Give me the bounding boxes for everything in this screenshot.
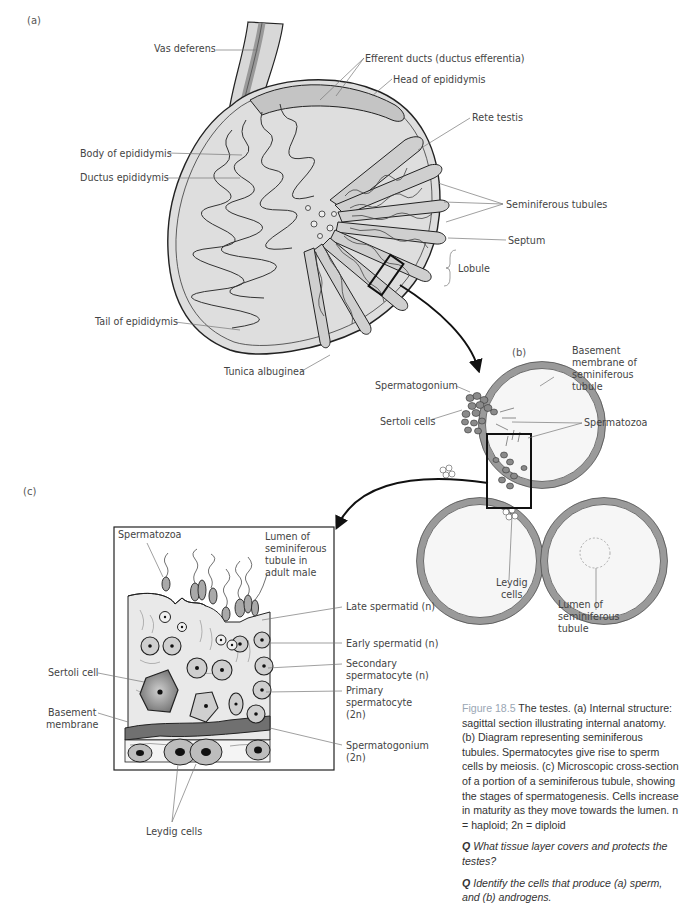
- label-ductus-epididymis: Ductus epididymis: [80, 172, 169, 183]
- label-spermatogonium-c-2: (2n): [346, 752, 366, 763]
- label-secondary-spermatocyte-2: spermatocyte (n): [346, 670, 429, 681]
- figure-caption: Figure 18.5 The testes. (a) Internal str…: [462, 701, 680, 905]
- label-leydig-cells-b-1: Leydig: [496, 577, 528, 588]
- panel-label-c: (c): [23, 486, 36, 497]
- label-tail-of-epididymis: Tail of epididymis: [94, 316, 178, 327]
- label-basement-membrane-c-2: membrane: [46, 719, 99, 730]
- label-lumen-c-3: tubule in: [265, 555, 307, 566]
- label-body-of-epididymis: Body of epididymis: [80, 148, 172, 159]
- label-spermatogonium-b: Spermatogonium: [375, 380, 458, 391]
- label-sertoli-cells-b: Sertoli cells: [380, 416, 435, 427]
- label-secondary-spermatocyte-1: Secondary: [346, 658, 397, 669]
- figure-number: Figure 18.5: [462, 702, 516, 714]
- label-lumen-c-2: seminiferous: [265, 543, 327, 554]
- label-primary-spermatocyte-2: spermatocyte: [346, 697, 412, 708]
- label-vas-deferens: Vas deferens: [154, 43, 216, 54]
- question-1: Q What tissue layer covers and protects …: [462, 839, 680, 868]
- label-rete-testis: Rete testis: [472, 112, 523, 123]
- panel-label-a: (a): [27, 15, 41, 26]
- label-lumen-b-1: Lumen of: [558, 599, 604, 610]
- label-leydig-cells-c: Leydig cells: [146, 826, 202, 837]
- label-leydig-cells-b-2: cells: [501, 589, 523, 600]
- label-basement-membrane-c-1: Basement: [48, 707, 97, 718]
- label-primary-spermatocyte-1: Primary: [346, 685, 383, 696]
- question-2: Q Identify the cells that produce (a) sp…: [462, 876, 680, 905]
- question-1-text: What tissue layer covers and protects th…: [462, 840, 668, 867]
- label-head-of-epididymis: Head of epididymis: [393, 74, 486, 85]
- label-seminiferous-tubules: Seminiferous tubules: [506, 199, 607, 210]
- panel-label-b: (b): [512, 347, 526, 358]
- label-basement-membrane-b-1: Basement: [572, 345, 621, 356]
- label-lumen-b-2: seminiferous: [558, 611, 620, 622]
- label-early-spermatid: Early spermatid (n): [346, 638, 438, 649]
- label-spermatozoa-c: Spermatozoa: [118, 529, 182, 540]
- label-basement-membrane-b-4: tubule: [572, 381, 603, 392]
- label-spermatozoa-b: Spermatozoa: [584, 417, 648, 428]
- label-primary-spermatocyte-3: (2n): [346, 709, 366, 720]
- testis-sagittal-section: [168, 22, 449, 354]
- label-basement-membrane-b-3: seminiferous: [572, 369, 634, 380]
- caption-body: Figure 18.5 The testes. (a) Internal str…: [462, 701, 680, 832]
- label-spermatogonium-c-1: Spermatogonium: [346, 740, 429, 751]
- label-lumen-b-3: tubule: [558, 623, 589, 634]
- seminiferous-tubules-diagram: [417, 362, 668, 625]
- label-late-spermatid: Late spermatid (n): [346, 601, 435, 612]
- label-sertoli-cell-c: Sertoli cell: [48, 667, 98, 678]
- question-2-marker: Q: [462, 877, 470, 889]
- caption-text: The testes. (a) Internal structure: sagi…: [462, 702, 679, 831]
- arrow-a-to-b: [400, 285, 478, 368]
- label-basement-membrane-b-2: membrane of: [572, 357, 637, 368]
- label-septum: Septum: [508, 235, 545, 246]
- question-2-text: Identify the cells that produce (a) sper…: [462, 877, 662, 904]
- label-lumen-c-4: adult male: [265, 567, 316, 578]
- question-1-marker: Q: [462, 840, 470, 852]
- label-lobule: Lobule: [458, 263, 490, 274]
- label-tunica-albuginea: Tunica albuginea: [223, 366, 305, 377]
- label-efferent-ducts: Efferent ducts (ductus efferentia): [365, 53, 525, 64]
- label-lumen-c-1: Lumen of: [265, 531, 311, 542]
